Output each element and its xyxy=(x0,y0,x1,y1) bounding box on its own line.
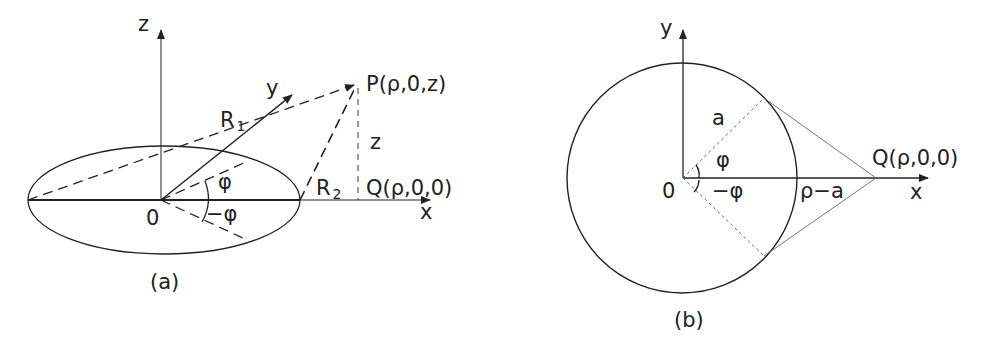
neg-phi-label-a: −φ xyxy=(206,204,237,225)
y-axis-label-b: y xyxy=(660,18,672,39)
diagram-canvas xyxy=(0,0,992,347)
distance-label: ρ−a xyxy=(800,181,844,202)
z-axis-label: z xyxy=(138,14,149,35)
phi-ray-dashed xyxy=(161,162,246,200)
r1-subscript: 1 xyxy=(237,118,246,134)
origin-label-a: 0 xyxy=(146,208,159,229)
x-axis-label-b: x xyxy=(910,182,922,203)
caption-a: (a) xyxy=(150,272,179,293)
z-height-label: z xyxy=(370,132,381,153)
point-p-label: P(ρ,0,z) xyxy=(366,74,446,95)
tangent-upper xyxy=(764,98,876,178)
phi-label-a: φ xyxy=(218,172,232,193)
origin-label-b: 0 xyxy=(662,181,675,202)
r2-subscript: 2 xyxy=(333,186,342,202)
point-q-label-b: Q(ρ,0,0) xyxy=(872,148,958,169)
r2-letter: R xyxy=(316,176,331,200)
phi-label-b: φ xyxy=(716,150,730,171)
neg-phi-label-b: −φ xyxy=(712,181,743,202)
y-axis-label: y xyxy=(266,78,278,99)
r1-letter: R xyxy=(220,108,235,132)
r2-label: R2 xyxy=(316,178,342,201)
x-axis-label: x xyxy=(420,202,432,223)
point-q-label-a: Q(ρ,0,0) xyxy=(366,178,452,199)
angle-arc-b-neg xyxy=(694,180,699,192)
r1-label: R1 xyxy=(220,110,246,133)
caption-b: (b) xyxy=(674,310,704,331)
radius-label: a xyxy=(712,108,725,129)
r1-dashed xyxy=(28,85,354,200)
angle-arc-b-pos xyxy=(696,165,699,178)
